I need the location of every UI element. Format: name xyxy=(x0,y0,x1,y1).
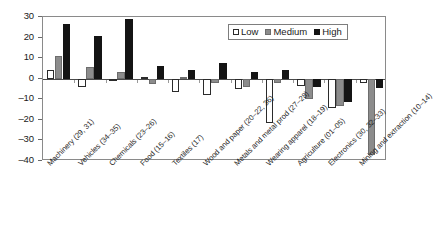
legend-swatch-low-icon xyxy=(233,29,239,35)
bar-low-1 xyxy=(78,79,85,87)
x-group-tick xyxy=(293,80,294,83)
x-group-tick xyxy=(106,80,107,83)
bar-low-2 xyxy=(109,79,116,81)
y-axis: 3020100–10–20–30–40 xyxy=(0,16,42,160)
chart-legend: LowMediumHigh xyxy=(228,24,348,40)
y-tick-label: 20 xyxy=(24,32,34,42)
legend-item-medium: Medium xyxy=(265,27,307,37)
bar-medium-3 xyxy=(149,79,156,84)
bar-medium-9 xyxy=(336,79,343,107)
bar-medium-1 xyxy=(86,67,93,78)
bar-high-7 xyxy=(282,70,289,78)
legend-label: Low xyxy=(241,27,258,37)
y-tick-label: 0 xyxy=(29,73,34,83)
legend-swatch-high-icon xyxy=(314,29,320,35)
y-tick-label: –30 xyxy=(18,135,34,145)
x-group-tick xyxy=(231,80,232,83)
bar-medium-4 xyxy=(180,77,187,79)
bar-low-0 xyxy=(47,70,54,78)
bar-medium-5 xyxy=(211,79,218,83)
bar-low-6 xyxy=(235,79,242,89)
y-tick-label: –20 xyxy=(18,114,34,124)
bar-low-8 xyxy=(297,79,304,86)
legend-label: Medium xyxy=(273,27,307,37)
y-tick-label: –40 xyxy=(18,155,34,165)
bar-high-1 xyxy=(94,36,101,79)
x-group-tick xyxy=(199,80,200,83)
x-group-tick xyxy=(137,80,138,83)
bar-low-5 xyxy=(203,79,210,95)
bar-high-8 xyxy=(313,79,320,87)
x-group-tick xyxy=(262,80,263,83)
bar-low-3 xyxy=(141,77,148,79)
bar-medium-2 xyxy=(117,72,124,79)
bar-low-10 xyxy=(360,79,367,83)
legend-label: High xyxy=(322,27,342,37)
bar-high-0 xyxy=(63,24,70,79)
x-group-tick xyxy=(74,80,75,83)
bar-low-4 xyxy=(172,79,179,92)
x-axis-labels: Machinery (29, 31)Vehicles (34–35)Chemic… xyxy=(42,160,386,251)
legend-item-high: High xyxy=(314,27,342,37)
bar-high-5 xyxy=(219,63,226,78)
bar-low-9 xyxy=(328,79,335,108)
bar-high-2 xyxy=(125,19,132,79)
bar-high-6 xyxy=(251,72,258,79)
x-group-tick xyxy=(168,80,169,83)
bar-medium-0 xyxy=(55,56,62,79)
legend-swatch-medium-icon xyxy=(265,29,271,35)
legend-item-low: Low xyxy=(233,27,258,37)
x-group-tick xyxy=(324,80,325,83)
y-tick-label: 30 xyxy=(24,11,34,21)
bar-high-9 xyxy=(344,79,351,103)
bar-high-4 xyxy=(188,70,195,78)
y-tick-label: 10 xyxy=(24,52,34,62)
bar-medium-6 xyxy=(243,79,250,87)
bar-high-3 xyxy=(157,66,164,78)
x-group-tick xyxy=(356,80,357,83)
y-tick-label: –10 xyxy=(18,94,34,104)
bar-medium-7 xyxy=(274,79,281,83)
bar-high-10 xyxy=(376,79,383,88)
